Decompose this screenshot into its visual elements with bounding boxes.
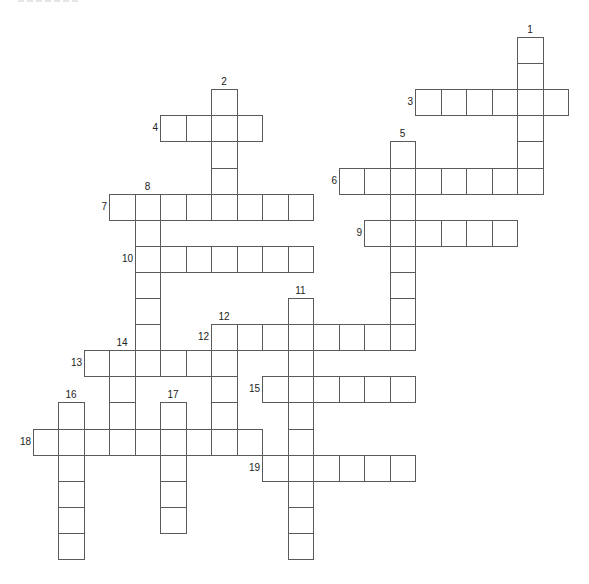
- crossword-cell[interactable]: [441, 220, 467, 247]
- crossword-cell[interactable]: [237, 324, 263, 351]
- crossword-cell[interactable]: [492, 89, 518, 116]
- crossword-cell[interactable]: [135, 194, 161, 221]
- crossword-cell[interactable]: [135, 350, 161, 377]
- crossword-cell[interactable]: [288, 350, 314, 377]
- crossword-cell[interactable]: [288, 507, 314, 534]
- crossword-cell[interactable]: [186, 115, 212, 142]
- crossword-cell[interactable]: [211, 376, 238, 403]
- crossword-cell[interactable]: [237, 194, 263, 221]
- crossword-cell[interactable]: [466, 220, 493, 247]
- crossword-cell[interactable]: [237, 429, 263, 456]
- crossword-cell[interactable]: [339, 168, 365, 195]
- crossword-cell[interactable]: [390, 220, 416, 247]
- crossword-cell[interactable]: [211, 350, 238, 377]
- crossword-cell[interactable]: [211, 115, 238, 142]
- crossword-cell[interactable]: [390, 168, 416, 195]
- crossword-cell[interactable]: [211, 194, 238, 221]
- crossword-cell[interactable]: [58, 455, 85, 482]
- crossword-cell[interactable]: [58, 481, 85, 508]
- crossword-cell[interactable]: [364, 220, 391, 247]
- crossword-cell[interactable]: [390, 324, 416, 351]
- crossword-cell[interactable]: [364, 168, 391, 195]
- crossword-cell[interactable]: [288, 194, 314, 221]
- crossword-cell[interactable]: [364, 376, 391, 403]
- crossword-cell[interactable]: [186, 350, 212, 377]
- crossword-cell[interactable]: [492, 168, 518, 195]
- crossword-cell[interactable]: [58, 429, 85, 456]
- crossword-cell[interactable]: [135, 272, 161, 299]
- crossword-cell[interactable]: [160, 194, 187, 221]
- crossword-cell[interactable]: [84, 350, 110, 377]
- crossword-cell[interactable]: [313, 455, 340, 482]
- crossword-cell[interactable]: [339, 455, 365, 482]
- crossword-cell[interactable]: [517, 168, 544, 195]
- crossword-cell[interactable]: [160, 350, 187, 377]
- crossword-cell[interactable]: [211, 168, 238, 195]
- crossword-cell[interactable]: [237, 246, 263, 273]
- crossword-cell[interactable]: [364, 455, 391, 482]
- crossword-cell[interactable]: [160, 481, 187, 508]
- crossword-cell[interactable]: [390, 298, 416, 325]
- crossword-cell[interactable]: [288, 533, 314, 560]
- crossword-cell[interactable]: [288, 246, 314, 273]
- crossword-cell[interactable]: [364, 324, 391, 351]
- crossword-cell[interactable]: [135, 324, 161, 351]
- crossword-cell[interactable]: [186, 246, 212, 273]
- crossword-cell[interactable]: [160, 246, 187, 273]
- crossword-cell[interactable]: [135, 429, 161, 456]
- crossword-cell[interactable]: [466, 168, 493, 195]
- crossword-cell[interactable]: [33, 429, 59, 456]
- crossword-cell[interactable]: [415, 89, 442, 116]
- crossword-cell[interactable]: [160, 507, 187, 534]
- crossword-cell[interactable]: [211, 324, 238, 351]
- crossword-cell[interactable]: [492, 220, 518, 247]
- crossword-cell[interactable]: [288, 429, 314, 456]
- crossword-cell[interactable]: [160, 429, 187, 456]
- crossword-cell[interactable]: [211, 89, 238, 116]
- crossword-cell[interactable]: [84, 429, 110, 456]
- crossword-cell[interactable]: [390, 376, 416, 403]
- crossword-cell[interactable]: [339, 376, 365, 403]
- crossword-cell[interactable]: [288, 402, 314, 430]
- crossword-cell[interactable]: [466, 89, 493, 116]
- crossword-cell[interactable]: [211, 246, 238, 273]
- crossword-cell[interactable]: [441, 89, 467, 116]
- crossword-cell[interactable]: [517, 63, 544, 90]
- crossword-cell[interactable]: [415, 168, 442, 195]
- crossword-cell[interactable]: [313, 324, 340, 351]
- crossword-cell[interactable]: [186, 429, 212, 456]
- crossword-cell[interactable]: [135, 220, 161, 247]
- crossword-cell[interactable]: [262, 246, 289, 273]
- crossword-cell[interactable]: [390, 246, 416, 273]
- crossword-cell[interactable]: [186, 194, 212, 221]
- crossword-cell[interactable]: [262, 194, 289, 221]
- crossword-cell[interactable]: [160, 402, 187, 430]
- crossword-cell[interactable]: [135, 246, 161, 273]
- crossword-cell[interactable]: [390, 194, 416, 221]
- crossword-cell[interactable]: [109, 350, 136, 377]
- crossword-cell[interactable]: [441, 168, 467, 195]
- crossword-cell[interactable]: [160, 455, 187, 482]
- crossword-cell[interactable]: [288, 376, 314, 403]
- crossword-cell[interactable]: [517, 89, 544, 116]
- crossword-cell[interactable]: [237, 115, 263, 142]
- crossword-cell[interactable]: [262, 455, 289, 482]
- crossword-cell[interactable]: [288, 481, 314, 508]
- crossword-cell[interactable]: [58, 507, 85, 534]
- crossword-cell[interactable]: [211, 402, 238, 430]
- crossword-cell[interactable]: [109, 376, 136, 403]
- crossword-cell[interactable]: [339, 324, 365, 351]
- crossword-cell[interactable]: [109, 429, 136, 456]
- crossword-cell[interactable]: [313, 376, 340, 403]
- crossword-cell[interactable]: [58, 402, 85, 430]
- crossword-cell[interactable]: [415, 220, 442, 247]
- crossword-cell[interactable]: [517, 115, 544, 142]
- crossword-cell[interactable]: [288, 298, 314, 325]
- crossword-cell[interactable]: [58, 533, 85, 560]
- crossword-cell[interactable]: [390, 141, 416, 169]
- crossword-cell[interactable]: [288, 455, 314, 482]
- crossword-cell[interactable]: [517, 37, 544, 64]
- crossword-cell[interactable]: [211, 429, 238, 456]
- crossword-cell[interactable]: [135, 298, 161, 325]
- crossword-cell[interactable]: [262, 376, 289, 403]
